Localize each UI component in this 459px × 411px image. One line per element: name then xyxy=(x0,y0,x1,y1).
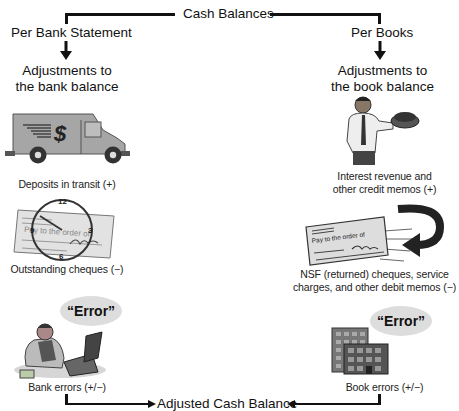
bank-errors-caption: Bank errors (+/−) xyxy=(0,381,134,394)
deposits-in-transit-caption: Deposits in transit (+) xyxy=(0,178,134,191)
svg-text:$: $ xyxy=(53,121,67,146)
returned-cheque-icon: Pay to the order of xyxy=(300,205,450,269)
top-connector-right xyxy=(270,13,381,16)
interest-revenue-line1: Interest revenue and xyxy=(310,170,459,183)
armored-truck-icon: $ xyxy=(5,112,131,164)
top-connector-right-drop xyxy=(378,13,381,24)
svg-text:12: 12 xyxy=(58,197,67,206)
bank-adjustments-line1: Adjustments to xyxy=(0,63,134,79)
book-adjustments-line1: Adjustments to xyxy=(320,63,445,79)
man-holding-money-icon xyxy=(335,95,425,165)
bank-adjustments-line2: the bank balance xyxy=(0,79,134,95)
svg-text:9: 9 xyxy=(30,226,35,235)
book-adjustments-heading: Adjustments to the book balance xyxy=(320,63,445,95)
error-bubble-text: “Error” xyxy=(67,303,115,319)
nsf-caption-line1: NSF (returned) cheques, service xyxy=(290,268,459,281)
outstanding-cheques-caption: Outstanding cheques (−) xyxy=(0,263,134,276)
top-connector-left-drop xyxy=(65,13,68,24)
interest-revenue-caption: Interest revenue and other credit memos … xyxy=(310,170,459,196)
books-heading: Per Books xyxy=(351,25,413,40)
office-building-icon xyxy=(330,328,390,376)
cheque-clock-icon: Pay to the order of 12 3 6 9 xyxy=(12,196,122,261)
right-arrow-icon xyxy=(148,400,156,408)
svg-text:3: 3 xyxy=(88,226,93,235)
book-adjustments-line2: the book balance xyxy=(320,79,445,95)
book-errors-caption: Book errors (+/−) xyxy=(310,381,459,394)
svg-text:6: 6 xyxy=(59,252,64,261)
banker-laptop-icon xyxy=(12,318,112,380)
error-bubble-text: “Error” xyxy=(377,313,425,329)
down-arrow-icon xyxy=(374,41,386,61)
nsf-cheques-caption: NSF (returned) cheques, service charges,… xyxy=(290,268,459,294)
interest-revenue-line2: other credit memos (+) xyxy=(310,183,459,196)
bottom-connector-right xyxy=(294,403,381,405)
bottom-connector-right-rise xyxy=(378,394,381,405)
top-connector-left xyxy=(65,13,175,16)
bank-adjustments-heading: Adjustments to the bank balance xyxy=(0,63,134,95)
nsf-caption-line2: charges, and other debit memos (−) xyxy=(290,281,459,294)
bottom-connector-left xyxy=(65,403,149,405)
diagram-title: Cash Balances xyxy=(183,6,274,21)
adjusted-cash-balance: Adjusted Cash Balance xyxy=(157,396,297,411)
down-arrow-icon xyxy=(60,41,72,61)
bank-statement-heading: Per Bank Statement xyxy=(11,25,132,40)
